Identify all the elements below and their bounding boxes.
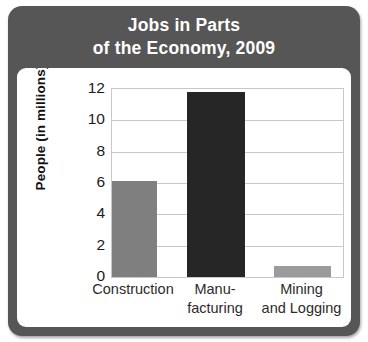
- x-tick-label-mining-and-logging: Mining and Logging: [250, 280, 351, 318]
- y-tick-label: 6: [75, 173, 105, 191]
- x-tick-label-line: and Logging: [250, 299, 351, 318]
- chart-title: Jobs in Parts of the Economy, 2009: [8, 14, 360, 60]
- chart-card: Jobs in Parts of the Economy, 2009 Peopl…: [8, 6, 360, 336]
- y-tick-label: 4: [75, 204, 105, 222]
- x-axis-tick-labels: Construction Manu- facturing Mining and …: [111, 280, 342, 326]
- bar-manufacturing[interactable]: [187, 92, 245, 277]
- y-tick-label: 12: [75, 79, 105, 97]
- y-axis-tick-labels: 12 10 8 6 4 2 0: [69, 88, 105, 276]
- x-tick-label-line: Mining: [250, 280, 351, 299]
- chart-plot-panel: People (in millions) 12 10 8 6 4 2 0 Con…: [17, 68, 351, 327]
- bar-construction[interactable]: [112, 181, 157, 277]
- y-tick-label: 8: [75, 142, 105, 160]
- y-tick-label: 2: [75, 236, 105, 254]
- y-axis-label: People (in millions): [33, 68, 48, 198]
- plot-area: [111, 88, 344, 278]
- bar-mining-and-logging[interactable]: [274, 266, 331, 277]
- chart-title-line-2: of the Economy, 2009: [8, 37, 360, 60]
- y-tick-label: 10: [75, 110, 105, 128]
- chart-title-line-1: Jobs in Parts: [8, 14, 360, 37]
